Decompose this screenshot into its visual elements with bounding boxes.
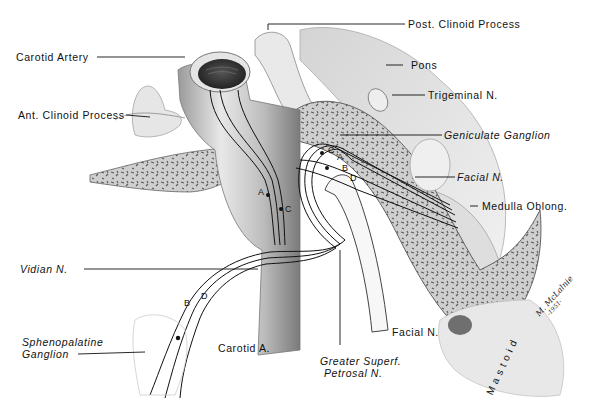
anatomical-illustration: Carotid Artery Post. Clinoid Process Pon… — [0, 0, 596, 408]
label-ganglion: Ganglion — [22, 348, 69, 360]
label-post-clinoid-process: Post. Clinoid Process — [408, 18, 520, 30]
fiber-letter-c-vertical: C — [285, 203, 292, 215]
fiber-letter-b-geniculate: B — [342, 162, 348, 174]
label-geniculate-ganglion: Geniculate Ganglion — [444, 129, 551, 141]
label-carotid-artery: Carotid Artery — [16, 51, 89, 63]
label-facial-n-upper: Facial N. — [457, 171, 504, 183]
fiber-letter-d-vidian: D — [201, 290, 208, 302]
geniculate-bulge — [410, 139, 450, 191]
label-medulla-oblong: Medulla Oblong. — [482, 200, 567, 212]
ant-clinoid-shape — [115, 86, 185, 137]
label-carotid-a: Carotid A. — [218, 342, 270, 354]
fiber-letter-a-vertical: A — [258, 186, 264, 198]
fiber-letter-d-geniculate: D — [350, 172, 357, 184]
mastoid-shape — [439, 300, 564, 396]
label-greater-superf: Greater Superf. — [320, 355, 401, 367]
sphenopalatine-ganglion-outline — [133, 315, 187, 395]
label-pons: Pons — [411, 59, 437, 71]
label-facial-n-lower: Facial N. — [392, 326, 439, 338]
fiber-letter-c-geniculate: C — [328, 144, 335, 156]
label-vidian-n: Vidian N. — [20, 263, 68, 275]
label-ant-clinoid-process: Ant. Clinoid Process — [18, 109, 125, 121]
fiber-letter-b-vidian: B — [184, 297, 190, 309]
label-trigeminal-n: Trigeminal N. — [428, 89, 498, 101]
label-sphenopalatine: Sphenopalatine — [22, 336, 103, 348]
label-petrosal-n: Petrosal N. — [324, 367, 383, 379]
